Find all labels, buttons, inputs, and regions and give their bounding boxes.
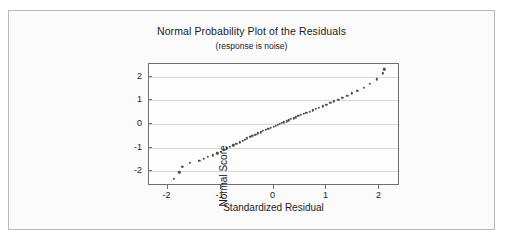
x-tick-label-2: 0 <box>270 190 275 200</box>
data-point <box>341 96 343 98</box>
plot-area <box>148 63 399 185</box>
y-axis-title: Normal Score <box>217 115 231 237</box>
data-point <box>362 86 364 88</box>
chart-title: Normal Probability Plot of the Residuals <box>9 25 494 37</box>
y-tick-1 <box>148 147 152 148</box>
data-point <box>356 89 358 91</box>
y-axis: -2-1012 <box>108 63 148 185</box>
data-point <box>256 132 258 134</box>
data-point <box>238 141 240 143</box>
gridline-y-3 <box>149 100 398 101</box>
x-tick-label-3: 1 <box>323 190 328 200</box>
data-point <box>181 166 183 168</box>
data-point <box>189 162 191 164</box>
data-point <box>318 106 320 108</box>
y-tick-3 <box>148 99 152 100</box>
y-tick-2 <box>148 123 152 124</box>
x-tick-0 <box>167 185 168 189</box>
y-tick-label-3: 1 <box>137 94 142 104</box>
data-point <box>232 144 234 146</box>
data-point <box>246 137 248 139</box>
x-axis-title: Standardized Residual <box>148 202 399 213</box>
data-point <box>346 94 348 96</box>
data-point <box>383 68 385 70</box>
data-point <box>262 130 264 132</box>
y-tick-4 <box>148 76 152 77</box>
data-point <box>202 157 204 159</box>
data-point <box>173 177 175 179</box>
gridline-y-1 <box>149 148 398 149</box>
data-point <box>369 83 371 85</box>
x-tick-2 <box>273 185 274 189</box>
y-tick-label-1: -1 <box>134 142 142 152</box>
x-tick-3 <box>325 185 326 189</box>
y-tick-label-2: 0 <box>137 118 142 128</box>
data-point <box>207 156 209 158</box>
data-point <box>315 108 317 110</box>
chart-card: Normal Probability Plot of the Residuals… <box>8 10 495 230</box>
gridline-y-4 <box>149 77 398 78</box>
data-point <box>376 78 378 80</box>
y-tick-0 <box>148 170 152 171</box>
data-point <box>329 102 331 104</box>
gridline-y-0 <box>149 171 398 172</box>
data-point <box>212 154 214 156</box>
y-tick-label-0: -2 <box>134 165 142 175</box>
data-point <box>325 104 327 106</box>
data-point <box>305 112 307 114</box>
data-point <box>308 110 310 112</box>
data-point <box>198 160 200 162</box>
data-point <box>235 143 237 145</box>
data-point <box>312 109 314 111</box>
x-tick-label-0: -2 <box>163 190 171 200</box>
x-tick-label-4: 2 <box>376 190 381 200</box>
x-tick-4 <box>378 185 379 189</box>
data-point <box>251 135 253 137</box>
data-point <box>322 105 324 107</box>
y-tick-label-4: 2 <box>137 71 142 81</box>
data-point <box>351 92 353 94</box>
data-point <box>381 72 383 74</box>
chart-subtitle: (response is noise) <box>9 41 494 51</box>
